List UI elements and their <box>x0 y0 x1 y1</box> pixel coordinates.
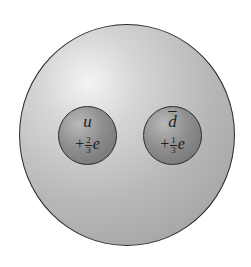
up-quark: u +23e <box>58 106 117 165</box>
meson-sphere <box>19 24 235 246</box>
quark-symbol: u <box>59 113 116 130</box>
meson-diagram: u +23e d +13e <box>0 0 251 267</box>
quark-symbol: d <box>144 113 201 130</box>
quark-charge: +23e <box>59 136 116 155</box>
charge-fraction: 13 <box>170 136 177 155</box>
charge-fraction: 23 <box>85 136 92 155</box>
quark-charge: +13e <box>144 136 201 155</box>
anti-down-quark: d +13e <box>143 106 202 165</box>
